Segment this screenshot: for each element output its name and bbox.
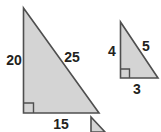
small-triangle-horizontal-leg-label: 3 — [133, 81, 141, 97]
small-triangle-hypotenuse-label: 5 — [142, 38, 150, 54]
large-triangle-shape — [24, 8, 100, 113]
small-triangle: 4 5 3 — [108, 22, 158, 97]
large-triangle-hypotenuse-label: 25 — [64, 49, 80, 65]
large-triangle-vertical-leg-label: 20 — [6, 52, 22, 68]
figure-canvas: 20 25 15 4 5 3 — [0, 0, 161, 132]
geometry-figure: 20 25 15 4 5 3 — [0, 0, 161, 132]
clipped-triangle-fragment-shape — [91, 117, 105, 132]
large-triangle: 20 25 15 — [6, 8, 99, 132]
clipped-triangle-fragment — [91, 117, 105, 132]
large-triangle-horizontal-leg-label: 15 — [53, 116, 69, 132]
small-triangle-vertical-leg-label: 4 — [108, 43, 116, 59]
